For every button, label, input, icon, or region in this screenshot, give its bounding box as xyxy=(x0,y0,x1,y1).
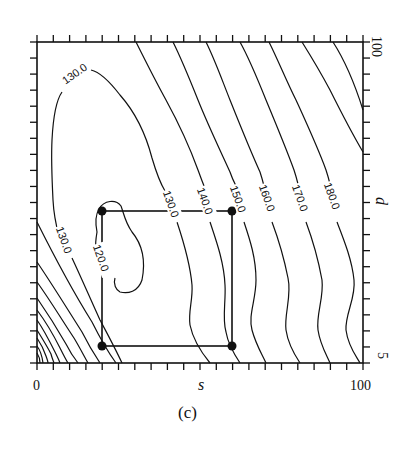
contour-labels: 130.0 130.0 120.0 130.0 140.0 150.0 160.… xyxy=(54,57,346,278)
contour-180-lower xyxy=(337,222,360,363)
contour-140-lower xyxy=(210,222,240,363)
y-tick-label-min: 5 xyxy=(375,352,390,359)
contour-label: 180.0 xyxy=(322,181,343,211)
contour-150-lower xyxy=(244,222,266,363)
contour-dense-lower-left xyxy=(37,222,116,363)
contour-figure: 130.0 130.0 120.0 130.0 140.0 150.0 160.… xyxy=(0,0,419,451)
contour-label: 130.0 xyxy=(60,61,89,87)
contour-160-upper xyxy=(206,42,264,186)
contour-label: 170.0 xyxy=(290,183,311,213)
contour-label: 160.0 xyxy=(257,183,278,213)
contour-130-left xyxy=(52,92,62,240)
contour-170-upper xyxy=(240,42,298,184)
x-tick-label-min: 0 xyxy=(33,378,40,393)
contour-200-upper xyxy=(333,42,363,110)
contour-150-upper xyxy=(173,42,236,186)
contour-170-lower xyxy=(306,222,330,363)
y-axis-title: d xyxy=(373,197,390,206)
contour-130-upper xyxy=(91,70,165,191)
contour-label: 130.0 xyxy=(161,189,182,219)
x-tick-label-max: 100 xyxy=(350,378,371,393)
contour-160-lower xyxy=(272,222,300,363)
contour-180-upper xyxy=(269,42,330,184)
contour-190-upper xyxy=(302,42,363,152)
figure-caption: (c) xyxy=(178,403,197,422)
contour-label: 130.0 xyxy=(54,225,75,255)
corner-point-bottom-left xyxy=(98,342,107,351)
highlighted-region xyxy=(98,207,237,351)
contour-130-box xyxy=(177,222,210,363)
contour-label: 120.0 xyxy=(91,243,112,273)
contour-140-upper xyxy=(136,42,205,188)
corner-point-bottom-right xyxy=(228,342,237,351)
x-axis-title: s xyxy=(198,376,204,393)
y-tick-label-max: 100 xyxy=(369,36,384,57)
corner-point-top-left xyxy=(98,207,107,216)
